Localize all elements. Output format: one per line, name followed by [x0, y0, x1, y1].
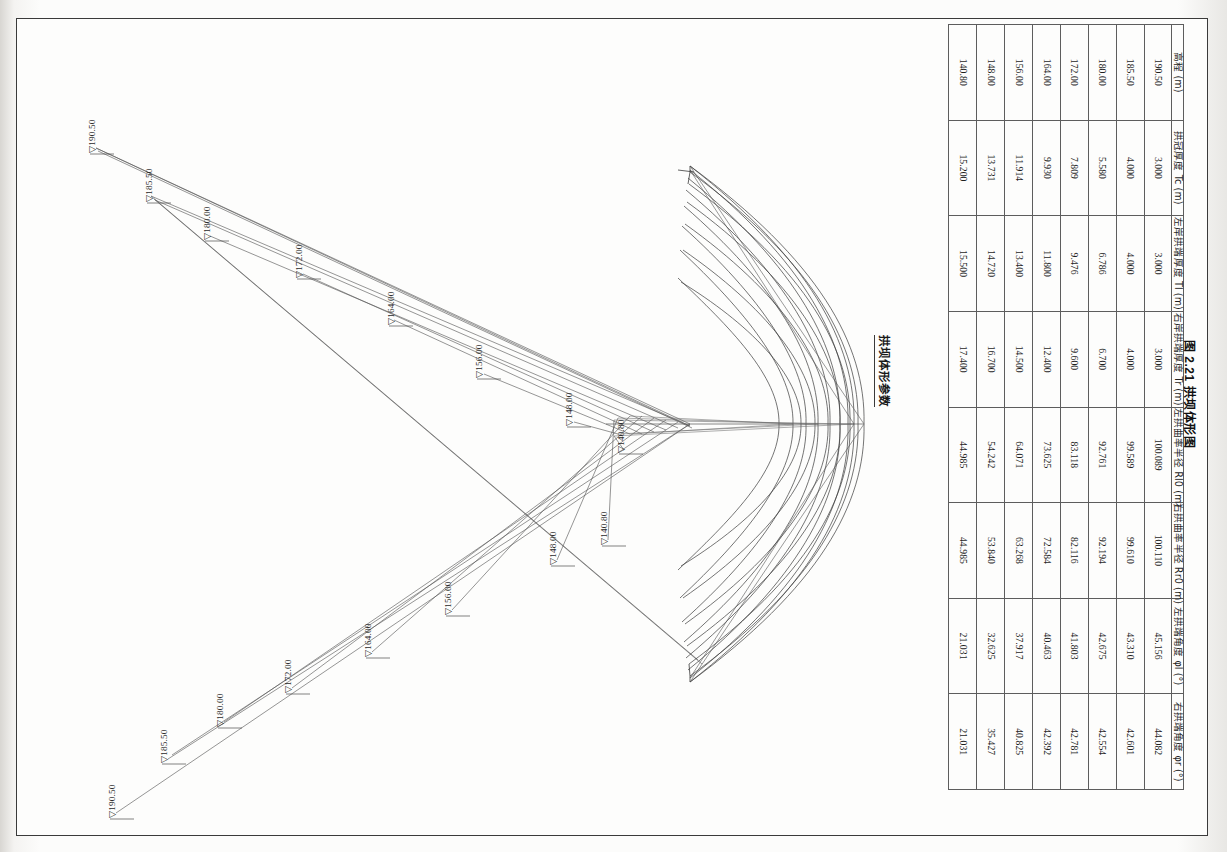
col-header-right-arch-radius: 右拱曲率半径 Rr0 (m) — [1172, 503, 1184, 599]
elevation-label: ▽190.50 — [106, 784, 117, 818]
table-title: 拱坝体形参数 — [874, 335, 893, 407]
table-row: 148.0013.73114.72016.70054.24253.84032.6… — [977, 25, 1005, 790]
table-cell: 100.089 — [1144, 407, 1172, 503]
col-header-left-abutment-thickness: 左岸拱端厚度 Tl (m) — [1172, 216, 1184, 312]
table-cell: 40.825 — [1004, 694, 1032, 790]
elevation-label: ▽172.00 — [282, 659, 293, 693]
col-header-crown-thickness: 拱冠厚度 Tc (m) — [1172, 120, 1184, 216]
table-cell: 180.00 — [1088, 25, 1116, 121]
table-cell: 14.720 — [977, 216, 1005, 312]
elevation-label: ▽164.00 — [385, 291, 396, 325]
table-cell: 100.110 — [1144, 503, 1172, 599]
arch-dam-drawing: ▽190.50 ▽185.50 ▽180.00 ▽172.00 ▽164.00 … — [18, 20, 878, 834]
table-cell: 42.392 — [1032, 694, 1060, 790]
arch-dam-parameters-table-block: 高程 (m) 拱冠厚度 Tc (m) 左岸拱端厚度 Tl (m) 右岸拱端厚度 … — [948, 24, 1184, 790]
elevation-label: ▽148.00 — [547, 531, 558, 565]
table-cell: 92.761 — [1088, 407, 1116, 503]
table-cell: 40.463 — [1032, 598, 1060, 694]
elevation-label: ▽185.50 — [143, 168, 154, 202]
col-header-elevation: 高程 (m) — [1172, 25, 1184, 121]
table-cell: 148.00 — [977, 25, 1005, 121]
table-cell: 13.731 — [977, 120, 1005, 216]
table-cell: 9.600 — [1060, 311, 1088, 407]
arch-ribs-upstream — [678, 166, 854, 424]
arch-dam-plan-svg — [18, 20, 878, 834]
table-cell: 4.000 — [1116, 120, 1144, 216]
arch-dam-parameters-table: 高程 (m) 拱冠厚度 Tc (m) 左岸拱端厚度 Tl (m) 右岸拱端厚度 … — [948, 24, 1184, 790]
table-cell: 41.803 — [1060, 598, 1088, 694]
table-cell: 54.242 — [977, 407, 1005, 503]
table-cell: 3.000 — [1144, 120, 1172, 216]
figure-caption: 图 2.21 拱坝体形图 — [1182, 340, 1199, 448]
table-row: 164.009.93011.80012.40073.62572.58440.46… — [1032, 25, 1060, 790]
table-cell: 11.914 — [1004, 120, 1032, 216]
table-row: 140.8015.20015.50017.40044.98544.98521.0… — [949, 25, 977, 790]
elevation-label: ▽140.80 — [615, 419, 626, 453]
table-cell: 6.700 — [1088, 311, 1116, 407]
table-cell: 83.118 — [1060, 407, 1088, 503]
table-cell: 11.800 — [1032, 216, 1060, 312]
table-cell: 156.00 — [1004, 25, 1032, 121]
table-cell: 42.554 — [1088, 694, 1116, 790]
table-cell: 35.427 — [977, 694, 1005, 790]
table-row: 185.504.0004.0004.00099.58999.61043.3104… — [1116, 25, 1144, 790]
table-cell: 4.000 — [1116, 216, 1144, 312]
table-cell: 4.000 — [1116, 311, 1144, 407]
table-cell: 44.082 — [1144, 694, 1172, 790]
table-cell: 190.50 — [1144, 25, 1172, 121]
table-cell: 7.809 — [1060, 120, 1088, 216]
table-cell: 164.00 — [1032, 25, 1060, 121]
elevation-label: ▽180.00 — [214, 693, 225, 727]
arch-ribs-upstream-lower — [678, 424, 854, 682]
table-cell: 15.500 — [949, 216, 977, 312]
table-cell: 15.200 — [949, 120, 977, 216]
elevation-label: ▽156.00 — [473, 344, 484, 378]
table-cell: 172.00 — [1060, 25, 1088, 121]
table-cell: 32.625 — [977, 598, 1005, 694]
table-cell: 63.268 — [1004, 503, 1032, 599]
col-header-left-arch-angle: 左拱端角度 φl (°) — [1172, 598, 1184, 694]
scanned-page: ▽190.50 ▽185.50 ▽180.00 ▽172.00 ▽164.00 … — [0, 0, 1227, 852]
elevation-label: ▽140.80 — [598, 511, 609, 545]
table-row: 180.005.5806.7866.70092.76192.19442.6754… — [1088, 25, 1116, 790]
table-cell: 13.400 — [1004, 216, 1032, 312]
table-cell: 53.840 — [977, 503, 1005, 599]
table-cell: 16.700 — [977, 311, 1005, 407]
table-cell: 3.000 — [1144, 216, 1172, 312]
table-cell: 42.601 — [1116, 694, 1144, 790]
table-cell: 44.985 — [949, 503, 977, 599]
table-cell: 99.589 — [1116, 407, 1144, 503]
elevation-label: ▽148.00 — [563, 392, 574, 426]
table-cell: 72.584 — [1032, 503, 1060, 599]
table-cell: 21.031 — [949, 694, 977, 790]
table-row: 172.007.8099.4769.60083.11882.11641.8034… — [1060, 25, 1088, 790]
table-cell: 44.985 — [949, 407, 977, 503]
table-cell: 9.930 — [1032, 120, 1060, 216]
table-cell: 185.50 — [1116, 25, 1144, 121]
table-cell: 6.786 — [1088, 216, 1116, 312]
elevation-label: ▽190.50 — [86, 119, 97, 153]
table-cell: 9.476 — [1060, 216, 1088, 312]
col-header-right-arch-angle: 右拱端角度 φr (°) — [1172, 694, 1184, 790]
table-row: 190.503.0003.0003.000100.089100.11045.15… — [1144, 25, 1172, 790]
table-cell: 17.400 — [949, 311, 977, 407]
table-cell: 37.917 — [1004, 598, 1032, 694]
table-cell: 5.580 — [1088, 120, 1116, 216]
elevation-label: ▽185.50 — [158, 729, 169, 763]
lower-radial-lines — [116, 416, 690, 813]
table-cell: 21.031 — [949, 598, 977, 694]
table-cell: 99.610 — [1116, 503, 1144, 599]
table-cell: 64.071 — [1004, 407, 1032, 503]
table-cell: 82.116 — [1060, 503, 1088, 599]
table-row: 156.0011.91413.40014.50064.07163.26837.9… — [1004, 25, 1032, 790]
table-cell: 42.781 — [1060, 694, 1088, 790]
table-cell: 45.156 — [1144, 598, 1172, 694]
table-body: 190.503.0003.0003.000100.089100.11045.15… — [949, 25, 1172, 790]
table-cell: 43.310 — [1116, 598, 1144, 694]
table-cell: 3.000 — [1144, 311, 1172, 407]
table-cell: 14.500 — [1004, 311, 1032, 407]
table-cell: 73.625 — [1032, 407, 1060, 503]
elevation-label: ▽164.00 — [362, 623, 373, 657]
table-cell: 92.194 — [1088, 503, 1116, 599]
elevation-label: ▽172.00 — [293, 244, 304, 278]
